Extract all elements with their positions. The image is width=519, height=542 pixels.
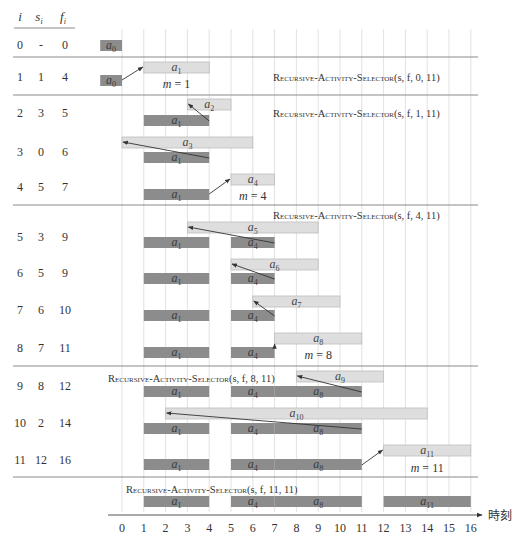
activity-index: 4 — [254, 242, 258, 251]
activity-index: 0 — [112, 45, 116, 54]
row-start-time: 5 — [38, 266, 44, 280]
header-f: fi — [60, 9, 66, 26]
activity-index: 1 — [178, 194, 182, 203]
activity-index: 1 — [178, 315, 182, 324]
time-tick-1: 1 — [141, 521, 147, 535]
step-row-11: 111216a11a1a4a8m = 11 — [14, 443, 471, 475]
activity-index: 0 — [112, 80, 116, 89]
time-tick-6: 6 — [250, 521, 256, 535]
step-row-1: 114a1a0m = 1 — [17, 60, 209, 91]
row-i: 5 — [17, 230, 23, 244]
row-finish-time: 0 — [62, 38, 68, 52]
activity-index: 3 — [188, 142, 192, 151]
row-finish-time: 9 — [62, 230, 68, 244]
row-start-time: 12 — [35, 453, 47, 467]
activity-index: 4 — [254, 464, 258, 473]
row-start-time: 1 — [38, 70, 44, 84]
activity-index: 8 — [319, 391, 323, 400]
activity-index: 4 — [254, 278, 258, 287]
activity-index: 8 — [319, 501, 323, 510]
time-axis: 012345678910111213141516時刻 — [108, 509, 512, 535]
time-tick-3: 3 — [184, 521, 190, 535]
activity-index: 1 — [178, 391, 182, 400]
row-finish-time: 6 — [62, 145, 68, 159]
row-i: 1 — [17, 70, 23, 84]
m-value: = 11 — [419, 461, 443, 475]
row-finish-time: 4 — [62, 70, 68, 84]
procedure-args: (s, f, 4, 11) — [394, 210, 440, 222]
time-tick-16: 16 — [465, 521, 477, 535]
m-value: = 1 — [171, 77, 190, 91]
selection-arrow — [362, 450, 383, 465]
row-i: 2 — [17, 106, 23, 120]
row-start-time: 3 — [38, 230, 44, 244]
step-row-8: 8711a8a1a4m = 8 — [17, 331, 362, 362]
m-value: = 4 — [248, 189, 267, 203]
row-i: 7 — [17, 303, 23, 317]
header-i: i — [18, 9, 22, 24]
step-row-5: 539a5a1a4 — [17, 220, 318, 251]
activity-index: 10 — [295, 413, 303, 422]
row-i: 10 — [14, 416, 26, 430]
recursive-call-label: Recursive-Activity-Selector(s, f, 11, 11… — [126, 484, 298, 496]
row-finish-time: 16 — [59, 453, 71, 467]
trace-figure: i si fi 0-0a0114a1a0m = 1235a2a1306a3a14… — [0, 0, 519, 542]
activity-index: 1 — [178, 120, 182, 129]
m-var: m — [304, 348, 313, 362]
row-start-time: 6 — [38, 303, 44, 317]
final-selection-row: a1a4a8a11 — [144, 494, 471, 510]
selected-m-label: m = 11 — [411, 461, 444, 475]
activity-index: 1 — [178, 67, 182, 76]
procedure-args: (s, f, 11, 11) — [247, 484, 298, 496]
selection-arrow — [209, 179, 230, 194]
activity-index: 7 — [297, 301, 301, 310]
recursive-call-label: Recursive-Activity-Selector(s, f, 0, 11) — [273, 72, 440, 84]
activity-index: 1 — [178, 352, 182, 361]
time-axis-label: 時刻 — [488, 509, 512, 523]
recursive-call-label: Recursive-Activity-Selector(s, f, 8, 11) — [108, 373, 275, 385]
row-finish-time: 5 — [62, 106, 68, 120]
activity-index: 11 — [426, 501, 434, 510]
time-tick-14: 14 — [421, 521, 433, 535]
activity-index: 11 — [426, 450, 434, 459]
row-start-time: 0 — [38, 145, 44, 159]
activity-index: 1 — [178, 501, 182, 510]
procedure-args: (s, f, 1, 11) — [394, 108, 440, 120]
procedure-args: (s, f, 0, 11) — [394, 72, 440, 84]
time-tick-15: 15 — [443, 521, 455, 535]
activity-index: 6 — [276, 264, 280, 273]
m-var: m — [411, 461, 420, 475]
recursive-call-label: Recursive-Activity-Selector(s, f, 4, 11) — [273, 210, 440, 222]
activity-index: 9 — [341, 376, 345, 385]
step-row-2: 235a2a1 — [17, 97, 231, 129]
time-tick-5: 5 — [228, 521, 234, 535]
recursive-call-label: Recursive-Activity-Selector(s, f, 1, 11) — [273, 108, 440, 120]
activity-index: 4 — [254, 315, 258, 324]
activity-index: 8 — [319, 428, 323, 437]
m-var: m — [163, 77, 172, 91]
row-finish-time: 10 — [59, 303, 71, 317]
procedure-name: Recursive-Activity-Selector — [126, 484, 247, 495]
activity-index: 1 — [178, 278, 182, 287]
activity-index: 8 — [319, 338, 323, 347]
procedure-name: Recursive-Activity-Selector — [273, 210, 394, 221]
row-start-time: 5 — [38, 180, 44, 194]
activity-index: 5 — [254, 227, 258, 236]
step-row-3: 306a3a1 — [17, 135, 253, 166]
table-header: i si fi — [14, 9, 75, 28]
time-tick-12: 12 — [378, 521, 390, 535]
row-start-time: 2 — [38, 416, 44, 430]
activity-index: 1 — [178, 157, 182, 166]
time-tick-0: 0 — [119, 521, 125, 535]
row-i: 9 — [17, 379, 23, 393]
row-finish-time: 9 — [62, 266, 68, 280]
activity-index: 4 — [254, 391, 258, 400]
activity-index: 4 — [254, 501, 258, 510]
activity-selector-diagram: i si fi 0-0a0114a1a0m = 1235a2a1306a3a14… — [0, 0, 519, 542]
activity-index: 1 — [178, 242, 182, 251]
time-tick-8: 8 — [293, 521, 299, 535]
row-finish-time: 11 — [59, 341, 71, 355]
step-row-10: 10214a10a1a4a8 — [14, 406, 427, 437]
time-tick-2: 2 — [163, 521, 169, 535]
time-tick-13: 13 — [399, 521, 411, 535]
